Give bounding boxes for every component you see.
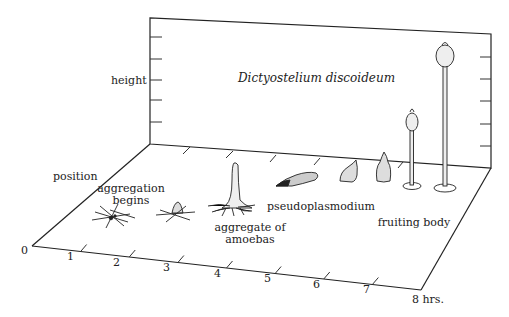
tick-label-5: 5 <box>264 272 271 285</box>
life-cycle-diagram: 0 1 2 3 4 5 6 7 8 hrs. height position D… <box>0 0 509 317</box>
aggregation-begins-drawing <box>92 204 135 228</box>
fruiting-body-small-drawing <box>403 109 421 190</box>
height-ticks-right <box>480 57 491 146</box>
culmination-mound-drawing <box>340 160 357 182</box>
stage-label-fruiting-body: fruiting body <box>378 216 451 229</box>
tick-label-1: 1 <box>67 250 74 263</box>
position-label: position <box>53 170 97 183</box>
time-tick-labels: 0 1 2 3 4 5 6 7 8 hrs. <box>21 244 444 306</box>
tick-label-3: 3 <box>163 261 170 274</box>
time-tick-5 <box>275 267 281 274</box>
time-tick-7 <box>372 278 378 285</box>
fruiting-body-tall-drawing <box>434 43 456 193</box>
time-tick-2 <box>129 250 135 257</box>
stage-label-aggregate-2: amoebas <box>225 233 275 246</box>
time-ticks <box>81 245 379 285</box>
tick-label-7: 7 <box>363 283 370 296</box>
pseudoplasmodium-drawing <box>276 172 318 186</box>
aggregate-small-drawing <box>156 202 195 222</box>
tick-label-8: 8 hrs. <box>412 293 444 306</box>
back-floor-ticks <box>183 147 403 168</box>
tick-label-0: 0 <box>21 244 28 257</box>
stage-label-aggregation-2: begins <box>113 194 150 207</box>
culmination-bulb-drawing <box>376 152 390 182</box>
time-tick-3 <box>178 256 184 263</box>
floor-right-edge <box>421 168 491 290</box>
diagram-title: Dictyostelium discoideum <box>237 71 395 85</box>
time-tick-6 <box>324 272 330 279</box>
time-tick-4 <box>227 261 233 268</box>
tick-label-4: 4 <box>214 267 221 280</box>
height-ticks-left <box>150 37 162 122</box>
tick-label-2: 2 <box>113 256 120 269</box>
time-tick-1 <box>81 245 87 252</box>
back-wall <box>150 18 491 168</box>
height-label: height <box>111 74 147 87</box>
aggregate-of-amoebas-drawing <box>208 163 255 216</box>
stage-label-pseudoplasmodium: pseudoplasmodium <box>267 200 375 213</box>
tick-label-6: 6 <box>313 278 320 291</box>
